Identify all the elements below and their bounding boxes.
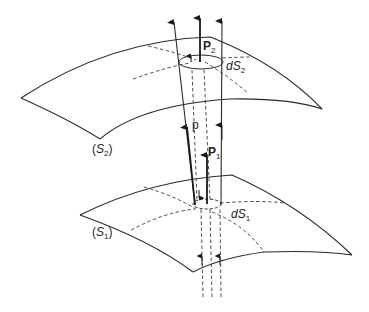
ray-tube-diagram: P2 dS2 p P1 dS1 (S2) (S1) [0,0,369,312]
label-ds2: dS2 [226,60,245,75]
label-p2: P2 [203,40,215,55]
area-element-ds2 [179,55,223,69]
label-p1: P1 [208,146,220,161]
label-ds1: dS1 [231,208,250,223]
label-s2: (S2) [92,143,112,158]
surface-s1 [80,175,352,272]
surface-s2 [21,37,322,139]
label-s1: (S1) [92,226,112,241]
diagram-canvas [0,0,369,312]
label-p: p [192,119,199,131]
